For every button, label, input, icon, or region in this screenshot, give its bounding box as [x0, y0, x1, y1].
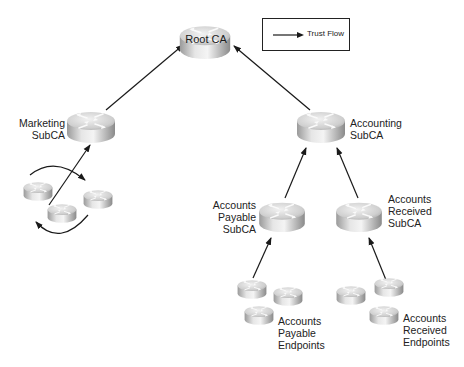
- label-line: Accounting: [350, 117, 402, 129]
- router-accounting-subca: [297, 112, 345, 143]
- label-line: Received: [403, 324, 450, 336]
- router-ap-endpoint-1: [238, 280, 267, 299]
- root-ca-label: Root CA: [183, 33, 229, 45]
- router-accounts-payable-subca: [259, 203, 305, 232]
- label-line: Accounts: [278, 315, 325, 327]
- label-line: SubCA: [200, 223, 256, 235]
- router-accounts-received-subca: [336, 203, 382, 232]
- accounts-received-subca-label: Accounts Received SubCA: [388, 193, 432, 229]
- edge-ap-endpoints-to-ap: [253, 238, 271, 278]
- label-line: SubCA: [8, 129, 65, 141]
- label-line: Payable: [200, 211, 256, 223]
- arrow-right-icon: [273, 31, 305, 39]
- label-line: Accounts: [403, 312, 450, 324]
- router-ap-endpoint-3: [245, 306, 274, 325]
- label-line: SubCA: [350, 129, 402, 141]
- label-line: Payable: [278, 327, 325, 339]
- cycle-arrow-top: [30, 166, 85, 180]
- accounting-subca-label: Accounting SubCA: [350, 117, 402, 141]
- label-line: Accounts: [200, 199, 256, 211]
- router-marketing-endpoint-1: [24, 182, 53, 201]
- edge-ap-to-accounting: [285, 148, 306, 198]
- router-ar-endpoint-2: [375, 278, 404, 297]
- router-ar-endpoint-1: [337, 286, 366, 305]
- label-line: Received: [388, 205, 432, 217]
- label-line: Endpoints: [278, 339, 325, 351]
- diagram-canvas: [0, 0, 464, 367]
- accounts-payable-endpoints-label: Accounts Payable Endpoints: [278, 315, 325, 351]
- edge-ar-endpoints-to-ar: [369, 238, 386, 280]
- label-line: Accounts: [388, 193, 432, 205]
- router-ap-endpoint-2: [274, 287, 303, 306]
- edge-accounting-to-root: [234, 46, 310, 110]
- legend-label: Trust Flow: [307, 29, 344, 38]
- router-marketing-endpoint-2: [84, 190, 113, 209]
- router-marketing-endpoint-3: [48, 204, 77, 223]
- router-marketing-subca: [67, 112, 115, 143]
- label-line: Marketing: [8, 117, 65, 129]
- legend-box: Trust Flow: [262, 18, 350, 51]
- accounts-received-endpoints-label: Accounts Received Endpoints: [403, 312, 450, 348]
- label-line: SubCA: [388, 217, 432, 229]
- marketing-subca-label: Marketing SubCA: [8, 117, 65, 141]
- edge-marketing-to-root: [106, 45, 183, 110]
- router-ar-endpoint-3: [370, 306, 399, 325]
- label-line: Endpoints: [403, 336, 450, 348]
- edge-ar-to-accounting: [337, 148, 358, 198]
- trust-edges: [30, 45, 386, 280]
- accounts-payable-subca-label: Accounts Payable SubCA: [200, 199, 256, 235]
